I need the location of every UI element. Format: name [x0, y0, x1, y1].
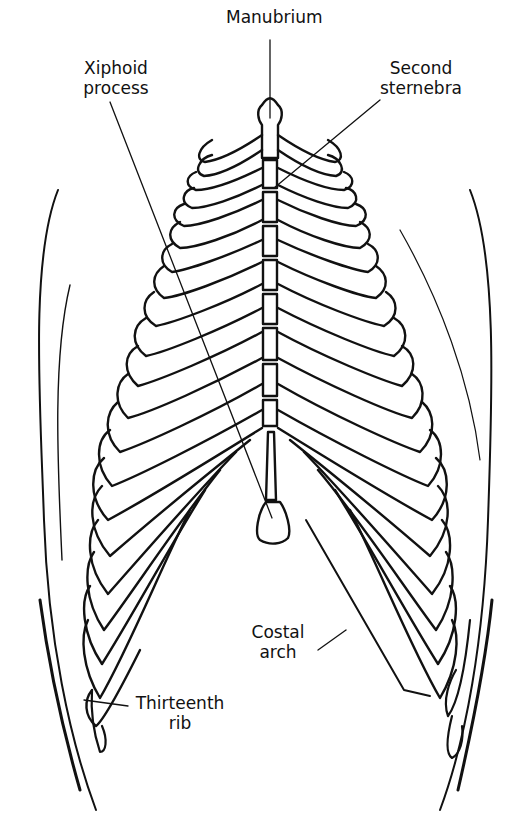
- label-xiphoid-process: Xiphoid process: [76, 58, 156, 98]
- costal-arch-leader: [318, 630, 346, 650]
- label-thirteenth-rib: Thirteenth rib: [128, 693, 232, 733]
- xiphoid-leader: [110, 102, 272, 518]
- ribs-right: [278, 135, 470, 758]
- ribs-left: [84, 135, 262, 752]
- sternum: [257, 98, 289, 543]
- label-second-sternebra: Second sternebra: [378, 58, 464, 98]
- label-costal-arch: Costal arch: [244, 622, 312, 662]
- rib-cage-drawing: [0, 0, 528, 814]
- label-manubrium: Manubrium: [226, 7, 314, 27]
- rib-cage-diagram: Manubrium Xiphoid process Second sterneb…: [0, 0, 528, 814]
- body-outline-left: [39, 190, 96, 810]
